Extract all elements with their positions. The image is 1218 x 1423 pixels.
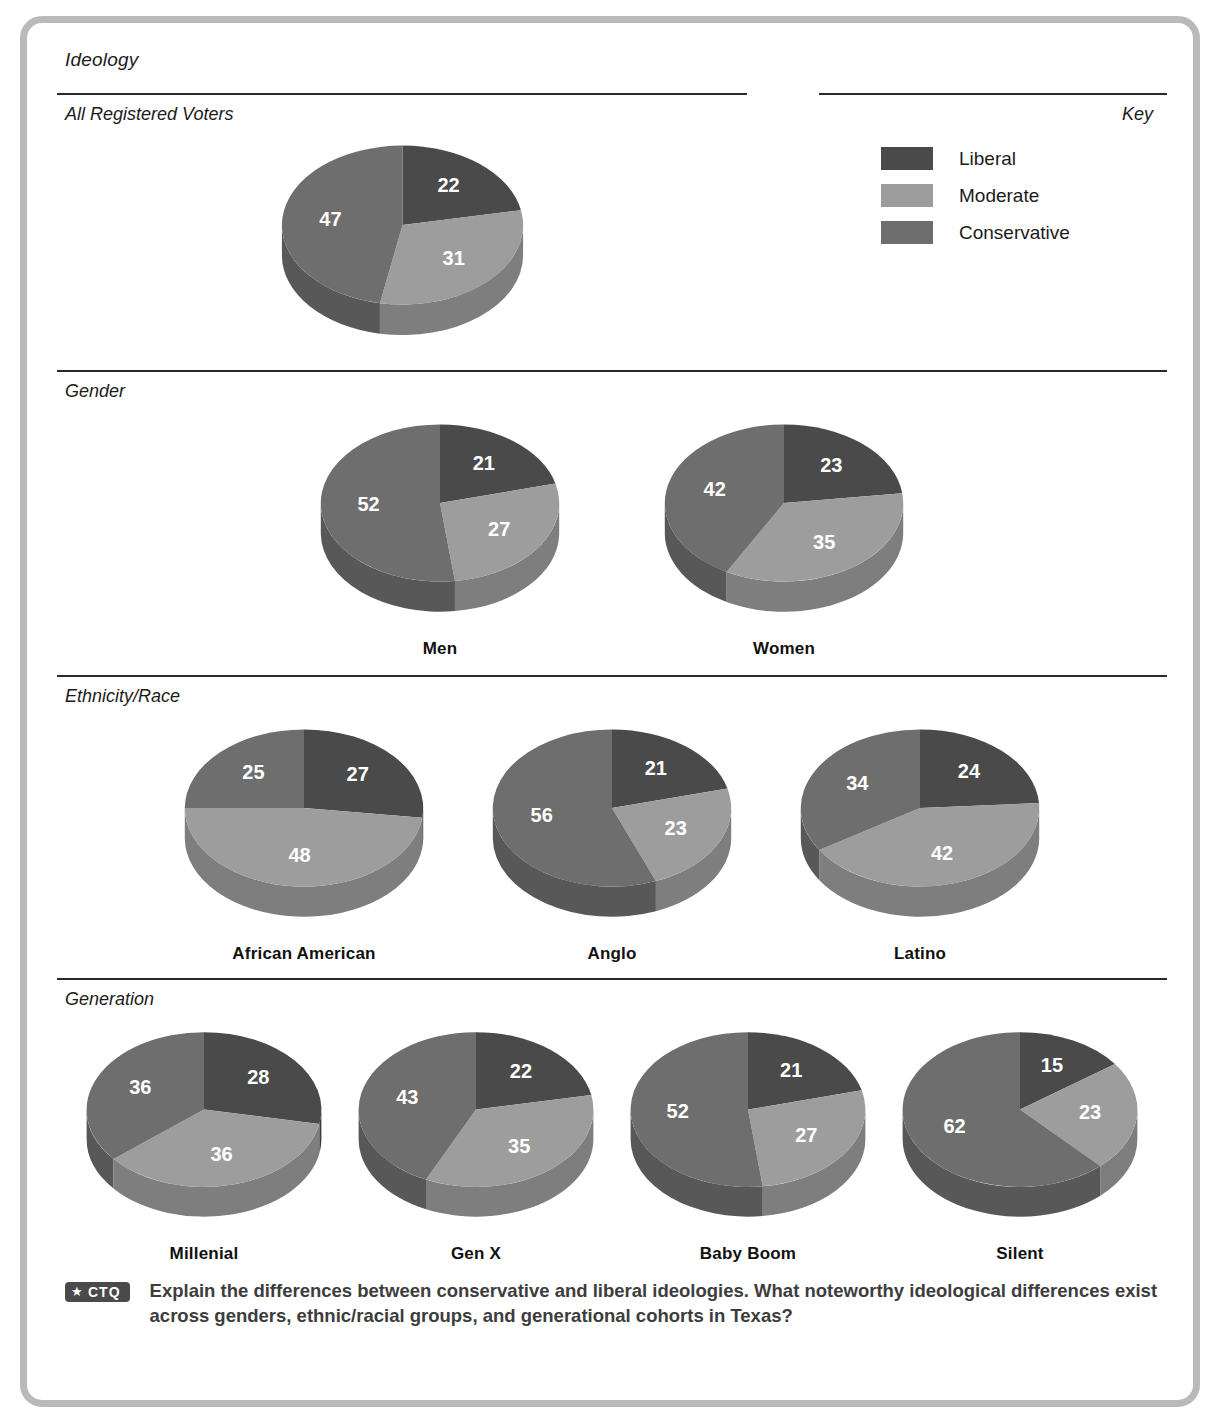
pie-value-label: 35 — [508, 1135, 530, 1157]
pie-canvas-3: 274825 — [173, 715, 435, 934]
pie-value-label: 27 — [488, 518, 510, 540]
pie-value-label: 31 — [442, 247, 464, 269]
section-generation: Generation 283636 Millenial 223543 Gen X… — [57, 978, 1167, 1264]
ctq-badge: ★ CTQ — [65, 1282, 130, 1302]
pie-value-label: 22 — [510, 1060, 532, 1082]
generation-pies: 283636 Millenial 223543 Gen X 212752 Bab… — [57, 1010, 1167, 1264]
legend: Liberal Moderate Conservative — [819, 147, 1167, 244]
legend-label-conservative: Conservative — [959, 222, 1070, 244]
pie-canvas-8: 212752 — [619, 1018, 877, 1234]
page-title: Ideology — [65, 49, 1167, 71]
pie-canvas-6: 283636 — [75, 1018, 333, 1234]
pie-value-label: 56 — [531, 805, 553, 827]
pie-canvas-4: 212356 — [481, 715, 743, 934]
ctq-question-text: Explain the differences between conserva… — [150, 1278, 1167, 1329]
critical-thinking-question: ★ CTQ Explain the differences between co… — [57, 1278, 1167, 1329]
column-gap — [747, 93, 819, 352]
figure-page: Ideology All Registered Voters 223147 Ke… — [0, 0, 1218, 1423]
all-voters-block: All Registered Voters 223147 — [57, 93, 747, 352]
pie-chart-gen-x: 223543 Gen X — [347, 1018, 605, 1264]
pie-value-label: 48 — [288, 844, 310, 866]
pie-value-label: 27 — [795, 1124, 817, 1146]
pie-caption-millenial: Millenial — [75, 1244, 333, 1264]
legend-item-conservative: Conservative — [881, 221, 1167, 244]
pie-value-label: 36 — [129, 1076, 151, 1098]
pie-canvas-5: 244234 — [789, 715, 1051, 934]
key-title: Key — [819, 95, 1167, 125]
pie-value-label: 28 — [247, 1066, 269, 1088]
pie-value-label: 47 — [319, 208, 341, 230]
pie-caption-african-american: African American — [173, 944, 435, 964]
all-voters-pies: 223147 — [57, 131, 747, 352]
pie-value-label: 24 — [958, 760, 980, 782]
pie-value-label: 27 — [347, 763, 369, 785]
pie-slice-liberal — [784, 425, 902, 504]
pie-caption-women: Women — [653, 639, 915, 659]
pie-caption-latino: Latino — [789, 944, 1051, 964]
pie-value-label: 23 — [1079, 1101, 1101, 1123]
pie-value-label: 21 — [645, 757, 667, 779]
pie-value-label: 43 — [396, 1086, 418, 1108]
pie-value-label: 36 — [210, 1143, 232, 1165]
pie-chart-millenial: 283636 Millenial — [75, 1018, 333, 1264]
section-label-gender: Gender — [65, 372, 1167, 402]
pie-value-label: 42 — [704, 478, 726, 500]
legend-item-moderate: Moderate — [881, 184, 1167, 207]
pie-chart-anglo: 212356 Anglo — [481, 715, 743, 964]
pie-chart-latino: 244234 Latino — [789, 715, 1051, 964]
pie-caption-silent: Silent — [891, 1244, 1149, 1264]
pie-chart-baby-boom: 212752 Baby Boom — [619, 1018, 877, 1264]
top-row: All Registered Voters 223147 Key Liberal… — [57, 93, 1167, 352]
star-icon: ★ — [71, 1285, 83, 1298]
legend-swatch-liberal — [881, 147, 933, 170]
section-label-generation: Generation — [65, 980, 1167, 1010]
pie-chart-men: 212752 Men — [309, 410, 571, 659]
figure-frame: Ideology All Registered Voters 223147 Ke… — [20, 16, 1200, 1407]
pie-value-label: 35 — [813, 531, 835, 553]
pie-value-label: 15 — [1041, 1054, 1063, 1076]
pie-chart-all-voters: 223147 — [270, 131, 535, 352]
section-label-ethnicity: Ethnicity/Race — [65, 677, 1167, 707]
pie-value-label: 52 — [667, 1100, 689, 1122]
pie-value-label: 23 — [820, 454, 842, 476]
pie-chart-women: 233542 Women — [653, 410, 915, 659]
ctq-abbr: CTQ — [88, 1285, 121, 1299]
pie-value-label: 62 — [943, 1114, 965, 1136]
pie-value-label: 34 — [846, 772, 868, 794]
ethnicity-pies: 274825 African American 212356 Anglo 244… — [57, 707, 1167, 964]
pie-value-label: 52 — [358, 494, 380, 516]
pie-value-label: 25 — [242, 761, 264, 783]
pie-value-label: 23 — [665, 818, 687, 840]
pie-canvas-1: 212752 — [309, 410, 571, 629]
pie-chart-silent: 152362 Silent — [891, 1018, 1149, 1264]
pie-canvas-7: 223543 — [347, 1018, 605, 1234]
gender-pies: 212752 Men 233542 Women — [57, 402, 1167, 659]
pie-value-label: 22 — [437, 174, 459, 196]
pie-caption-anglo: Anglo — [481, 944, 743, 964]
pie-value-label: 21 — [780, 1059, 802, 1081]
section-gender: Gender 212752 Men 233542 Women — [57, 370, 1167, 659]
pie-caption-gen-x: Gen X — [347, 1244, 605, 1264]
pie-value-label: 21 — [473, 452, 495, 474]
pie-caption-baby-boom: Baby Boom — [619, 1244, 877, 1264]
legend-label-moderate: Moderate — [959, 185, 1039, 207]
pie-caption-men: Men — [309, 639, 571, 659]
legend-item-liberal: Liberal — [881, 147, 1167, 170]
section-label-all-voters: All Registered Voters — [65, 95, 747, 125]
pie-canvas-2: 233542 — [653, 410, 915, 629]
legend-label-liberal: Liberal — [959, 148, 1016, 170]
pie-canvas-9: 152362 — [891, 1018, 1149, 1234]
key-block: Key Liberal Moderate Conservative — [819, 93, 1167, 352]
legend-swatch-moderate — [881, 184, 933, 207]
legend-swatch-conservative — [881, 221, 933, 244]
section-ethnicity: Ethnicity/Race 274825 African American 2… — [57, 675, 1167, 964]
pie-value-label: 42 — [931, 842, 953, 864]
pie-chart-african-american: 274825 African American — [173, 715, 435, 964]
pie-canvas-0: 223147 — [270, 131, 535, 352]
